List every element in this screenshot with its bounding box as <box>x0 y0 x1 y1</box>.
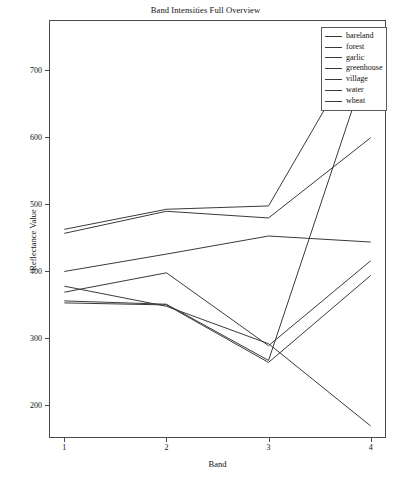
legend-swatch-bareland <box>325 36 342 37</box>
legend-item-water[interactable]: water <box>325 85 382 96</box>
legend-label: village <box>346 74 368 85</box>
legend-swatch-greenhouse <box>325 68 342 69</box>
y-tick-label: 500 <box>2 199 42 208</box>
y-axis-title: Reflectance Value <box>28 209 38 270</box>
x-tick-label: 1 <box>49 443 79 452</box>
legend-item-greenhouse[interactable]: greenhouse <box>325 63 382 74</box>
x-tick-label: 2 <box>151 443 181 452</box>
legend-item-bareland[interactable]: bareland <box>325 31 382 42</box>
y-tick-label: 700 <box>2 66 42 75</box>
legend-swatch-village <box>325 79 342 80</box>
legend-label: greenhouse <box>346 63 382 74</box>
legend-label: garlic <box>346 53 364 64</box>
y-tick-label: 600 <box>2 133 42 142</box>
legend-item-village[interactable]: village <box>325 74 382 85</box>
series-line-forest <box>64 275 370 362</box>
x-tick-mark <box>371 438 372 442</box>
series-line-wheat <box>64 261 370 346</box>
legend-swatch-wheat <box>325 101 342 102</box>
legend-label: water <box>346 85 364 96</box>
legend-label: bareland <box>346 31 374 42</box>
x-tick-mark <box>64 438 65 442</box>
x-tick-label: 3 <box>254 443 284 452</box>
legend-swatch-water <box>325 90 342 91</box>
series-line-village <box>64 236 370 271</box>
legend-label: forest <box>346 42 364 53</box>
x-axis-title: Band <box>49 459 386 469</box>
chart-title: Band Intensities Full Overview <box>0 5 411 15</box>
legend-swatch-forest <box>325 47 342 48</box>
y-tick-label: 200 <box>2 400 42 409</box>
chart-figure: Band Intensities Full Overview Reflectan… <box>0 0 411 479</box>
x-tick-label: 4 <box>356 443 386 452</box>
legend-swatch-garlic <box>325 57 342 58</box>
legend-label: wheat <box>346 96 365 107</box>
series-line-water <box>64 286 370 426</box>
x-tick-mark <box>269 438 270 442</box>
legend-item-garlic[interactable]: garlic <box>325 53 382 64</box>
legend-item-forest[interactable]: forest <box>325 42 382 53</box>
legend-item-wheat[interactable]: wheat <box>325 96 382 107</box>
x-tick-mark <box>166 438 167 442</box>
y-tick-label: 400 <box>2 266 42 275</box>
y-tick-label: 300 <box>2 333 42 342</box>
series-line-greenhouse <box>64 138 370 234</box>
legend: barelandforestgarlicgreenhousevillagewat… <box>321 27 387 111</box>
